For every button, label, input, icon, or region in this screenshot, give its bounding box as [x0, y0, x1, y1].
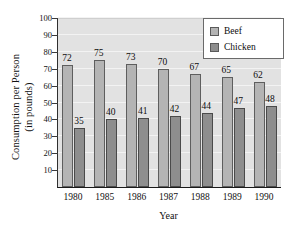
legend-swatch-chicken-icon — [210, 43, 219, 52]
x-axis-title: Year — [57, 210, 280, 221]
chart-legend: Beef Chicken — [203, 18, 284, 59]
bar-value-label: 35 — [74, 116, 84, 126]
gridline — [58, 102, 281, 103]
x-axis-tick-label: 1985 — [95, 192, 114, 202]
x-axis-tick-label: 1987 — [159, 192, 178, 202]
y-axis-tick-mark — [52, 86, 58, 87]
y-axis-tick-mark — [52, 119, 58, 120]
bar-value-label: 44 — [202, 101, 212, 111]
legend-item-beef: Beef — [210, 23, 283, 39]
bar-value-label: 47 — [233, 96, 243, 106]
legend-swatch-beef-icon — [210, 27, 219, 36]
bar-value-label: 48 — [265, 94, 275, 104]
bar-value-label: 70 — [158, 57, 168, 67]
bar-value-label: 67 — [190, 62, 200, 72]
bar-beef-1980 — [62, 65, 73, 187]
y-axis-tick-label: 70 — [31, 64, 52, 74]
x-axis-tick-label: 1989 — [223, 192, 242, 202]
y-axis-tick-mark — [52, 35, 58, 36]
bar-beef-1988 — [190, 74, 201, 187]
bar-value-label: 75 — [94, 48, 104, 58]
gridline — [58, 85, 281, 86]
x-axis-tick-label: 1988 — [191, 192, 210, 202]
bar-chicken-1988 — [202, 113, 213, 187]
bar-chicken-1989 — [234, 108, 245, 187]
y-axis-tick-mark — [52, 170, 58, 171]
bar-value-label: 65 — [221, 65, 231, 75]
legend-label-chicken: Chicken — [224, 42, 256, 52]
bar-chicken-1990 — [266, 106, 277, 187]
y-axis-tick-mark — [52, 103, 58, 104]
y-axis-tick-label: 10 — [31, 165, 52, 175]
bar-beef-1989 — [222, 77, 233, 187]
bar-value-label: 41 — [138, 106, 148, 116]
y-axis-tick-label: 50 — [31, 98, 52, 108]
y-axis-title-line1: Consumption per Person — [10, 19, 23, 195]
x-axis-tick-label: 1980 — [63, 192, 82, 202]
y-axis-tick-mark — [52, 153, 58, 154]
y-axis-tick-label: 20 — [31, 148, 52, 158]
bar-chart: Consumption per Person (in pounds) 10203… — [0, 0, 292, 233]
bar-chicken-1980 — [74, 128, 85, 187]
y-axis-tick-mark — [52, 136, 58, 137]
gridline — [58, 68, 281, 69]
legend-label-beef: Beef — [224, 26, 242, 36]
bar-value-label: 72 — [62, 53, 72, 63]
y-axis-tick-mark — [52, 52, 58, 53]
y-axis-tick-labels: 102030405060708090100 — [31, 12, 52, 192]
bar-chicken-1987 — [170, 116, 181, 187]
y-axis-tick-mark — [52, 18, 58, 19]
bar-chicken-1986 — [138, 118, 149, 187]
bar-chicken-1985 — [106, 119, 117, 187]
y-axis-tick-label: 90 — [31, 30, 52, 40]
y-axis-tick-label: 30 — [31, 131, 52, 141]
bar-beef-1985 — [94, 60, 105, 187]
x-axis-tick-label: 1986 — [127, 192, 146, 202]
bar-value-label: 73 — [126, 52, 136, 62]
y-axis-tick-label: 60 — [31, 81, 52, 91]
legend-item-chicken: Chicken — [210, 39, 283, 55]
bar-value-label: 42 — [170, 104, 180, 114]
bar-beef-1987 — [158, 69, 169, 187]
bar-beef-1990 — [254, 82, 265, 187]
bar-beef-1986 — [126, 64, 137, 187]
y-axis-tick-label: 40 — [31, 114, 52, 124]
y-axis-tick-label: 100 — [31, 13, 52, 23]
y-axis-tick-mark — [52, 69, 58, 70]
y-axis-tick-label: 80 — [31, 47, 52, 57]
bar-value-label: 40 — [106, 107, 116, 117]
bar-value-label: 62 — [253, 70, 263, 80]
x-axis-tick-label: 1990 — [255, 192, 274, 202]
